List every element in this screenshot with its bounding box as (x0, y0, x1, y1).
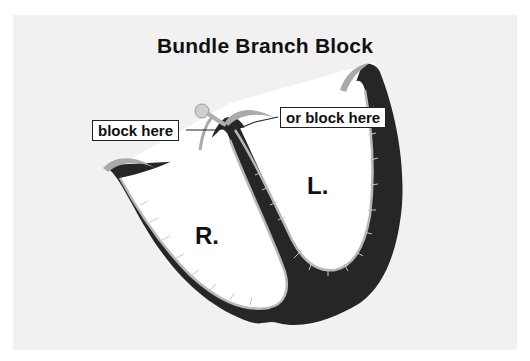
callout-or-block-here: or block here (280, 107, 386, 128)
label-right-ventricle: R. (195, 222, 219, 250)
av-node (195, 104, 209, 118)
label-left-ventricle: L. (307, 172, 328, 200)
callout-block-here: block here (92, 120, 179, 141)
heart-illustration (0, 0, 530, 361)
